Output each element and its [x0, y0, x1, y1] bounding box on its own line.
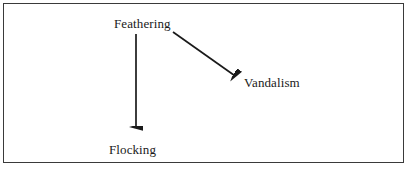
- node-label-feathering: Feathering: [114, 16, 171, 31]
- node-label-vandalism: Vandalism: [244, 75, 300, 90]
- edge-feathering-to-vandalism: [173, 32, 235, 76]
- diagram-canvas: [0, 0, 413, 172]
- node-label-flocking: Flocking: [109, 142, 156, 157]
